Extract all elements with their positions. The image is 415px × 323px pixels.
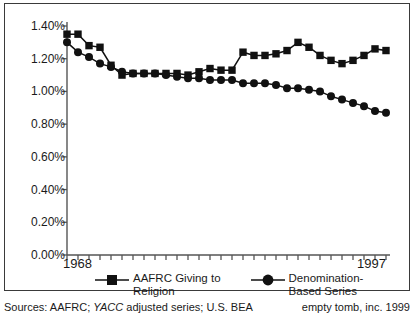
data-point-marker [360, 102, 368, 110]
data-point-marker [272, 81, 280, 89]
data-point-marker [349, 57, 356, 64]
footer-sources-prefix: Sources: AAFRC; [4, 301, 93, 313]
y-axis-tick-label: 0.00% [9, 249, 65, 261]
y-axis-tick-label: 1.00% [9, 85, 65, 97]
series-denomination [63, 38, 390, 116]
data-point-marker [382, 47, 389, 54]
footer-sources-suffix: adjusted series; U.S. BEA [123, 301, 253, 313]
data-point-marker [371, 107, 379, 115]
data-point-marker [206, 65, 213, 72]
y-axis-tick-label: 0.20% [9, 216, 65, 228]
footer-sources-italic: YACC [93, 301, 123, 313]
footer-credit: empty tomb, inc. 1999 [302, 301, 410, 313]
data-point-marker [338, 96, 346, 104]
data-point-marker [239, 79, 247, 87]
series-group [63, 30, 390, 116]
data-point-marker [228, 76, 236, 84]
data-point-marker [272, 50, 279, 57]
data-point-marker [173, 73, 181, 81]
data-point-marker [250, 52, 257, 59]
data-point-marker [338, 60, 345, 67]
legend-swatch-square-icon [95, 273, 129, 287]
x-axis-end-label: 1997 [357, 256, 386, 271]
chart-footer: Sources: AAFRC; YACC adjusted series; U.… [4, 299, 410, 319]
data-point-marker [283, 47, 290, 54]
data-point-marker [217, 76, 225, 84]
data-point-marker [371, 45, 378, 52]
legend-swatch-circle-icon [251, 273, 285, 287]
chart-screenshot: 0.00%0.20%0.40%0.60%0.80%1.00%1.20%1.40%… [0, 0, 415, 323]
data-point-marker [349, 99, 357, 107]
data-point-marker [261, 79, 269, 87]
data-point-marker [206, 76, 214, 84]
data-point-marker [118, 68, 126, 76]
data-point-marker [316, 52, 323, 59]
data-point-marker [382, 109, 390, 117]
y-axis-tick-labels: 0.00%0.20%0.40%0.60%0.80%1.00%1.20%1.40% [5, 4, 65, 292]
legend-label-aafrc: AAFRC Giving to Religion [133, 272, 221, 298]
series-line [67, 42, 386, 112]
footer-sources: Sources: AAFRC; YACC adjusted series; U.… [4, 301, 253, 313]
data-point-marker [74, 48, 82, 56]
data-point-marker [228, 66, 235, 73]
plot-area [5, 4, 411, 292]
y-axis-tick-label: 1.20% [9, 53, 65, 65]
data-point-marker [140, 69, 148, 77]
data-point-marker [316, 87, 324, 95]
data-point-marker [162, 71, 170, 79]
y-axis-tick-label: 0.80% [9, 118, 65, 130]
data-point-marker [85, 42, 92, 49]
data-point-marker [85, 53, 93, 61]
x-axis-start-label: 1968 [63, 256, 92, 271]
y-axis-tick-label: 1.40% [9, 20, 65, 32]
data-point-marker [74, 30, 81, 37]
data-point-marker [305, 44, 312, 51]
data-point-marker [184, 74, 192, 82]
data-point-marker [195, 74, 203, 82]
data-point-marker [327, 57, 334, 64]
y-axis-tick-label: 0.40% [9, 184, 65, 196]
legend-label-denomination: Denomination- Based Series [289, 272, 364, 298]
line-chart-svg [5, 4, 411, 292]
data-point-marker [129, 69, 137, 77]
data-point-marker [107, 63, 115, 71]
data-point-marker [283, 84, 291, 92]
data-point-marker [239, 48, 246, 55]
data-point-marker [96, 44, 103, 51]
data-point-marker [217, 66, 224, 73]
y-axis-tick-label: 0.60% [9, 151, 65, 163]
axes-group [62, 22, 390, 260]
data-point-marker [360, 52, 367, 59]
data-point-marker [305, 86, 313, 94]
chart-frame: 0.00%0.20%0.40%0.60%0.80%1.00%1.20%1.40%… [4, 3, 410, 291]
data-point-marker [261, 52, 268, 59]
data-point-marker [96, 60, 104, 68]
data-point-marker [250, 79, 258, 87]
series-aafrc [63, 30, 389, 78]
data-point-marker [294, 84, 302, 92]
data-point-marker [151, 69, 159, 77]
data-point-marker [327, 92, 335, 100]
data-point-marker [294, 39, 301, 46]
